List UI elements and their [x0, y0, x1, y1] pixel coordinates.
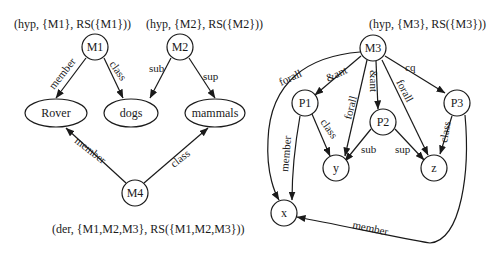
node-x-label: x: [281, 206, 287, 220]
label-m4-member: member: [73, 134, 109, 166]
node-p3-label: P3: [451, 96, 464, 110]
node-m3: M3: [360, 35, 386, 61]
node-x: x: [271, 200, 297, 226]
node-m1: M1: [82, 34, 108, 60]
node-dogs: dogs: [104, 99, 158, 127]
node-p1-label: P1: [299, 96, 312, 110]
node-mammals-label: mammals: [192, 106, 239, 120]
label-m3-forall-x: forall: [277, 67, 304, 88]
annotation-m3: (hyp, {M3}, RS({M3})): [369, 17, 486, 31]
node-p1: P1: [292, 90, 318, 116]
node-dogs-label: dogs: [120, 106, 143, 120]
node-rover-label: Rover: [41, 106, 70, 120]
node-m2-label: M2: [172, 40, 189, 54]
label-p1-member: member: [278, 135, 293, 172]
node-m2: M2: [167, 34, 193, 60]
label-m3-ant-p2: &ant: [368, 70, 380, 92]
label-m1-class: class: [107, 58, 129, 82]
node-m4: M4: [122, 180, 148, 206]
node-rover: Rover: [25, 99, 87, 127]
label-p2-sub: sub: [361, 143, 377, 155]
label-m3-cq: cq: [405, 61, 416, 73]
node-p3: P3: [444, 90, 470, 116]
node-m1-label: M1: [87, 40, 104, 54]
node-p2: P2: [370, 109, 396, 135]
node-m3-label: M3: [365, 41, 382, 55]
edge-p1-member-x: [292, 116, 300, 200]
node-m4-label: M4: [127, 186, 144, 200]
label-p3-member: member: [352, 218, 390, 237]
node-y-label: y: [333, 161, 339, 175]
label-m3-ant-p1: &ant: [324, 64, 349, 84]
label-p2-sup: sup: [395, 143, 411, 155]
annotation-m1: (hyp, {M1}, RS({M1})): [14, 17, 131, 31]
node-p2-label: P2: [377, 115, 390, 129]
edge-m3-forall-z: [382, 60, 428, 155]
node-y: y: [323, 155, 349, 181]
annotation-m2: (hyp, {M2}, RS({M2})): [146, 17, 263, 31]
label-m2-sub: sub: [149, 62, 165, 74]
node-mammals: mammals: [185, 99, 245, 127]
annotation-m4: (der, {M1,M2,M3}, RS({M1,M2,M3})): [52, 222, 245, 236]
label-m2-sup: sup: [203, 70, 219, 82]
label-m1-member: member: [46, 55, 78, 91]
label-p3-class: class: [437, 120, 453, 143]
label-m4-class: class: [168, 147, 192, 170]
semantic-network-diagram: (hyp, {M1}, RS({M1})) (hyp, {M2}, RS({M2…: [0, 0, 498, 257]
node-z-label: z: [431, 161, 436, 175]
node-z: z: [421, 155, 447, 181]
